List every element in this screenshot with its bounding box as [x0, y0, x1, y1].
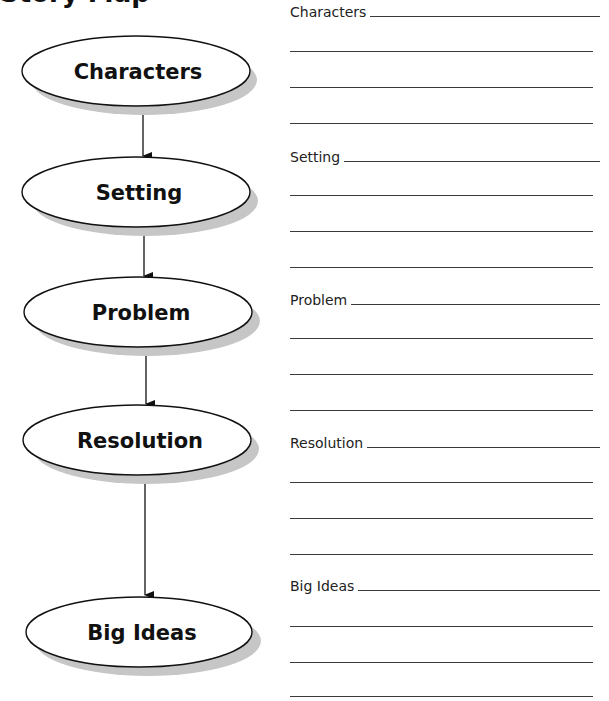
write-in-line[interactable] — [290, 696, 593, 697]
node-problem: Problem — [24, 277, 260, 356]
write-in-line[interactable] — [290, 518, 593, 519]
write-in-line[interactable] — [370, 15, 600, 17]
write-in-line[interactable] — [290, 662, 593, 663]
write-in-line[interactable] — [290, 267, 593, 268]
write-in-line[interactable] — [344, 160, 600, 162]
write-in-line[interactable] — [290, 374, 593, 375]
write-in-line[interactable] — [290, 87, 593, 88]
section-problem: Problem — [290, 288, 600, 308]
section-label: Characters — [290, 4, 370, 20]
write-in-line[interactable] — [290, 51, 593, 52]
write-in-line[interactable] — [290, 195, 593, 196]
section-label: Setting — [290, 149, 344, 165]
node-label: Problem — [92, 301, 191, 325]
section-label: Big Ideas — [290, 578, 358, 594]
node-label: Resolution — [77, 429, 203, 453]
section-setting: Setting — [290, 145, 600, 165]
write-in-line[interactable] — [358, 589, 600, 591]
write-in-line[interactable] — [351, 303, 600, 305]
section-characters: Characters — [290, 0, 600, 20]
node-label: Big Ideas — [87, 621, 196, 645]
write-in-line[interactable] — [290, 123, 593, 124]
section-resolution: Resolution — [290, 431, 600, 451]
node-resolution: Resolution — [23, 405, 259, 484]
node-big-ideas: Big Ideas — [26, 597, 261, 676]
write-in-line[interactable] — [290, 410, 593, 411]
story-map-diagram: Characters Setting Problem Resolution Bi… — [0, 0, 290, 701]
write-in-line[interactable] — [290, 482, 593, 483]
section-label: Problem — [290, 292, 351, 308]
node-characters: Characters — [22, 36, 257, 115]
worksheet: Characters Setting Problem Resolution — [290, 0, 609, 701]
write-in-line[interactable] — [290, 338, 593, 339]
section-label: Resolution — [290, 435, 367, 451]
write-in-line[interactable] — [290, 626, 593, 627]
node-label: Characters — [74, 60, 203, 84]
write-in-line[interactable] — [367, 446, 600, 448]
node-setting: Setting — [22, 157, 258, 236]
write-in-line[interactable] — [290, 554, 593, 555]
write-in-line[interactable] — [290, 231, 593, 232]
section-big-ideas: Big Ideas — [290, 574, 600, 594]
node-label: Setting — [96, 181, 183, 205]
